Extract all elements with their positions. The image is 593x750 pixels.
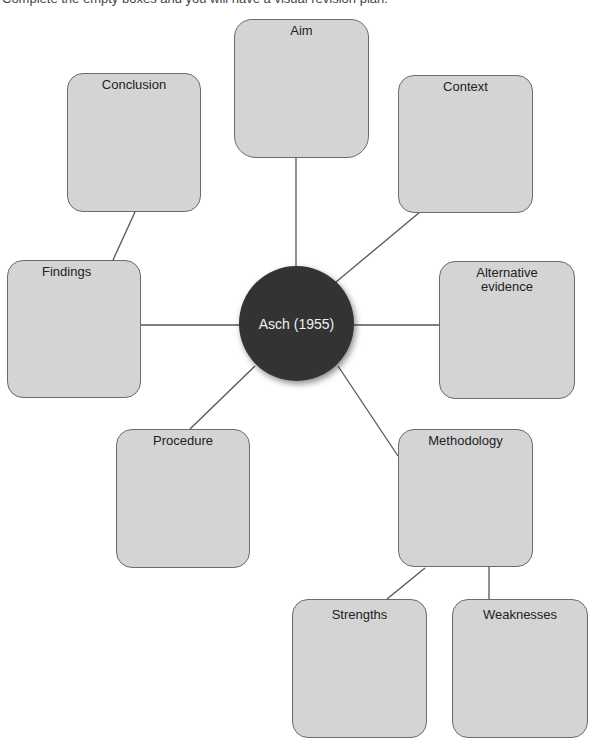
findings-box[interactable]: Findings (7, 260, 141, 398)
box-label: Conclusion (68, 78, 200, 92)
methodology-box[interactable]: Methodology (398, 429, 533, 567)
box-label: Aim (235, 24, 368, 38)
central-topic-circle: Asch (1955) (239, 266, 354, 381)
connector-strengths (387, 568, 425, 599)
box-label: Findings (8, 265, 140, 279)
connector-context (336, 212, 420, 282)
box-label: Procedure (117, 434, 249, 448)
context-box[interactable]: Context (398, 75, 533, 213)
conclusion-box[interactable]: Conclusion (67, 73, 201, 212)
alternative-evidence-box[interactable]: Alternative evidence (439, 261, 575, 399)
box-label: Strengths (293, 608, 426, 622)
connector-conclusion-findings (113, 212, 135, 260)
weaknesses-box[interactable]: Weaknesses (452, 599, 588, 738)
box-label: Weaknesses (453, 608, 587, 622)
strengths-box[interactable]: Strengths (292, 599, 427, 738)
aim-box[interactable]: Aim (234, 19, 369, 158)
procedure-box[interactable]: Procedure (116, 429, 250, 568)
box-label: Context (399, 80, 532, 94)
connector-procedure (190, 366, 255, 429)
box-label: Methodology (399, 434, 532, 448)
central-topic-label: Asch (1955) (259, 316, 334, 332)
connector-methodology (338, 366, 398, 456)
box-label: Alternative evidence (440, 266, 574, 294)
